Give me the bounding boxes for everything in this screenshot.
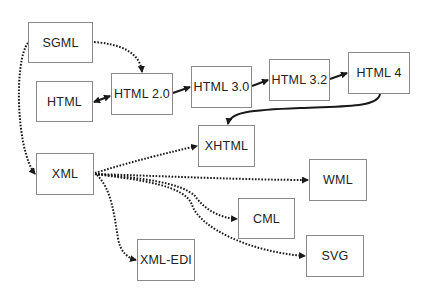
node-xhtml: XHTML (198, 125, 255, 167)
node-label: HTML 3.2 (271, 73, 327, 87)
node-cml: CML (238, 198, 295, 239)
edge-xml-cml (95, 174, 237, 219)
node-label: SVG (322, 249, 349, 263)
node-html: HTML (36, 81, 93, 122)
edge-html32-html4 (330, 73, 347, 79)
node-label: CML (253, 212, 280, 226)
edge-html30-html32 (252, 80, 268, 86)
node-html-4: HTML 4 (348, 52, 410, 94)
node-label: XML (52, 167, 78, 181)
edge-html-html20 (94, 96, 110, 102)
node-label: XHTML (205, 139, 248, 153)
node-sgml: SGML (28, 22, 93, 63)
node-html-3-0: HTML 3.0 (191, 66, 252, 108)
node-label: XML-EDI (140, 253, 192, 267)
node-label: SGML (42, 36, 78, 50)
node-svg: SVG (306, 235, 364, 277)
node-html-2-0: HTML 2.0 (111, 73, 173, 115)
node-xml: XML (36, 153, 94, 195)
node-label: HTML (47, 95, 82, 109)
edge-html20-html30 (173, 87, 190, 93)
node-wml: WML (309, 159, 367, 201)
edge-xml-xmledi (97, 175, 136, 260)
node-label: HTML 2.0 (114, 87, 170, 101)
edge-sgml-html20 (94, 42, 142, 72)
node-label: HTML 4 (356, 66, 401, 80)
edge-xml-xhtml (95, 146, 197, 173)
node-label: WML (323, 173, 353, 187)
node-html-3-2: HTML 3.2 (269, 59, 330, 101)
node-label: HTML 3.0 (193, 80, 249, 94)
diagram-canvas: SGML HTML HTML 2.0 HTML 3.0 HTML 3.2 HTM… (0, 0, 427, 297)
node-xml-edi: XML-EDI (137, 239, 195, 281)
